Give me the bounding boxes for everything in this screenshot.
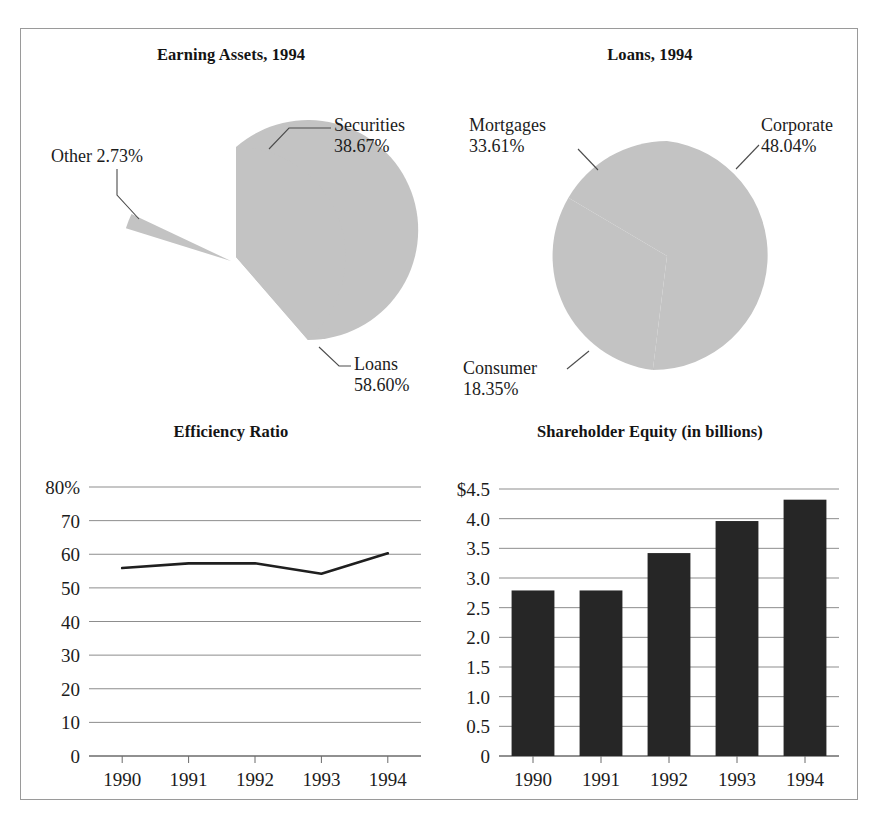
svg-text:1994: 1994 — [369, 769, 408, 790]
corporate-name: Corporate — [761, 115, 833, 136]
equity-ytick-labels: 00.51.01.52.02.53.03.54.0$4.5 — [457, 479, 490, 767]
efficiency-xaxis — [89, 487, 388, 763]
bar-1994 — [784, 500, 827, 756]
equity-xaxis — [533, 756, 805, 763]
svg-text:0: 0 — [481, 746, 491, 767]
panel-shareholder-equity: Shareholder Equity (in billions) 00.51.0… — [441, 399, 859, 799]
securities-value: 38.67% — [334, 136, 405, 157]
svg-text:60: 60 — [61, 544, 80, 565]
shareholder-equity-title: Shareholder Equity (in billions) — [441, 422, 859, 442]
label-corporate: Corporate 48.04% — [761, 115, 833, 157]
efficiency-ratio-title: Efficiency Ratio — [21, 422, 441, 442]
svg-text:40: 40 — [61, 612, 80, 633]
equity-xtick-labels: 19901991199219931994 — [514, 769, 825, 790]
efficiency-ratio-chart: 01020304050607080% 19901991199219931994 — [21, 399, 441, 799]
loans-name: Loans — [354, 354, 410, 375]
earning-assets-pie-svg — [21, 29, 441, 399]
corporate-leader-line — [736, 145, 759, 169]
bar-1991 — [580, 590, 623, 756]
efficiency-gridlines — [89, 487, 421, 756]
svg-text:1991: 1991 — [582, 769, 620, 790]
bar-1990 — [512, 590, 555, 756]
consumer-value: 18.35% — [463, 379, 537, 400]
svg-text:2.5: 2.5 — [466, 598, 490, 619]
svg-text:80%: 80% — [45, 477, 80, 498]
svg-text:30: 30 — [61, 645, 80, 666]
loans-title: Loans, 1994 — [441, 45, 859, 65]
bar-1993 — [716, 521, 759, 756]
other-leader-line — [117, 169, 139, 219]
panel-loans: Loans, 1994 Mortgages 33.61% Corporate 4… — [441, 29, 859, 399]
loans-pie-svg — [441, 29, 859, 399]
figure-border: Earning Assets, 1994 Securities 38.67% O… — [20, 28, 858, 800]
svg-text:1991: 1991 — [170, 769, 208, 790]
svg-text:2.0: 2.0 — [466, 627, 490, 648]
label-mortgages: Mortgages 33.61% — [469, 115, 546, 157]
svg-text:0: 0 — [71, 746, 81, 767]
earning-assets-title: Earning Assets, 1994 — [21, 45, 441, 65]
efficiency-xtick-labels: 19901991199219931994 — [103, 769, 407, 790]
svg-text:1990: 1990 — [103, 769, 141, 790]
mortgages-leader-line — [578, 149, 598, 170]
mortgages-name: Mortgages — [469, 115, 546, 136]
svg-text:10: 10 — [61, 712, 80, 733]
pie-slice-other — [126, 214, 231, 261]
label-securities: Securities 38.67% — [334, 115, 405, 157]
svg-text:3.0: 3.0 — [466, 568, 490, 589]
corporate-value: 48.04% — [761, 136, 833, 157]
label-other: Other 2.73% — [51, 146, 143, 167]
svg-text:4.0: 4.0 — [466, 509, 490, 530]
svg-text:1.5: 1.5 — [466, 657, 490, 678]
svg-text:1990: 1990 — [514, 769, 552, 790]
svg-text:1992: 1992 — [650, 769, 688, 790]
svg-text:50: 50 — [61, 578, 80, 599]
svg-text:1.0: 1.0 — [466, 687, 490, 708]
svg-text:1993: 1993 — [718, 769, 756, 790]
efficiency-line-series — [122, 553, 388, 574]
shareholder-equity-chart: 00.51.01.52.02.53.03.54.0$4.5 1990199119… — [441, 399, 859, 799]
pie-slice-corporate — [653, 141, 768, 370]
bar-1992 — [648, 553, 691, 756]
svg-text:1992: 1992 — [236, 769, 274, 790]
svg-text:1993: 1993 — [302, 769, 340, 790]
svg-text:70: 70 — [61, 511, 80, 532]
mortgages-value: 33.61% — [469, 136, 546, 157]
consumer-leader-line — [567, 351, 589, 369]
label-consumer: Consumer 18.35% — [463, 358, 537, 400]
svg-text:1994: 1994 — [786, 769, 825, 790]
panel-earning-assets: Earning Assets, 1994 Securities 38.67% O… — [21, 29, 441, 399]
svg-text:$4.5: $4.5 — [457, 479, 490, 500]
panel-efficiency-ratio: Efficiency Ratio 01020304050607080% 1990… — [21, 399, 441, 799]
svg-text:3.5: 3.5 — [466, 538, 490, 559]
efficiency-ytick-labels: 01020304050607080% — [45, 477, 80, 767]
consumer-name: Consumer — [463, 358, 537, 379]
label-loans: Loans 58.60% — [354, 354, 410, 396]
svg-text:20: 20 — [61, 679, 80, 700]
svg-text:0.5: 0.5 — [466, 716, 490, 737]
securities-name: Securities — [334, 115, 405, 136]
loans-leader-line — [319, 347, 351, 366]
equity-bars — [512, 500, 827, 756]
loans-value: 58.60% — [354, 375, 410, 396]
